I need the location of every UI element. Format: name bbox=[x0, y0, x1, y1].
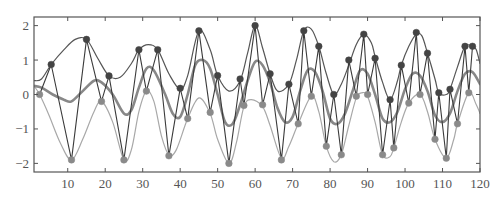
y-tick-label: 2 bbox=[23, 18, 30, 33]
data-point-marker bbox=[301, 28, 308, 35]
data-point-marker bbox=[469, 43, 476, 50]
sample-path bbox=[40, 26, 473, 164]
data-point-marker bbox=[424, 50, 431, 57]
data-point-marker bbox=[316, 43, 323, 50]
data-point-marker bbox=[83, 36, 90, 43]
data-point-marker bbox=[398, 62, 405, 69]
data-point-marker bbox=[417, 91, 424, 98]
data-point-marker bbox=[136, 46, 143, 53]
data-point-marker bbox=[323, 143, 330, 150]
data-point-marker bbox=[372, 55, 379, 62]
data-point-marker bbox=[278, 157, 285, 164]
x-tick-label: 60 bbox=[249, 176, 262, 191]
data-point-marker bbox=[121, 157, 128, 164]
data-point-marker bbox=[443, 155, 450, 162]
data-point-marker bbox=[252, 22, 259, 29]
data-point-marker bbox=[177, 85, 184, 92]
data-point-marker bbox=[436, 90, 443, 97]
mean-curve bbox=[34, 60, 480, 126]
data-point-marker bbox=[413, 29, 420, 36]
data-point-marker bbox=[166, 153, 173, 160]
x-tick-label: 90 bbox=[361, 176, 374, 191]
data-point-marker bbox=[48, 61, 55, 68]
y-tick-label: −1 bbox=[15, 121, 29, 136]
data-point-marker bbox=[353, 93, 360, 100]
data-point-marker bbox=[98, 98, 105, 105]
data-point-marker bbox=[184, 115, 191, 122]
data-point-marker bbox=[143, 88, 150, 95]
data-point-marker bbox=[338, 152, 345, 159]
data-point-marker bbox=[214, 72, 221, 79]
x-tick-label: 10 bbox=[61, 176, 74, 191]
y-tick-label: 0 bbox=[23, 87, 30, 102]
data-point-marker bbox=[331, 91, 338, 98]
y-tick-label: −2 bbox=[15, 156, 29, 171]
x-tick-label: 50 bbox=[211, 176, 224, 191]
data-point-marker bbox=[346, 57, 353, 64]
data-point-marker bbox=[432, 136, 439, 143]
plot-area bbox=[34, 22, 480, 166]
data-point-marker bbox=[308, 93, 315, 100]
data-point-marker bbox=[406, 100, 413, 107]
data-point-marker bbox=[295, 121, 302, 128]
data-point-marker bbox=[241, 102, 248, 109]
x-tick-label: 30 bbox=[136, 176, 149, 191]
data-point-marker bbox=[196, 28, 203, 35]
data-point-marker bbox=[106, 73, 113, 80]
x-tick-label: 80 bbox=[324, 176, 337, 191]
x-tick-label: 100 bbox=[395, 176, 415, 191]
data-point-marker bbox=[387, 96, 394, 103]
x-tick-label: 70 bbox=[286, 176, 299, 191]
data-point-marker bbox=[462, 43, 469, 50]
line-chart: 102030405060708090100110120 −2−1012 bbox=[0, 0, 503, 201]
data-point-marker bbox=[226, 160, 233, 167]
data-point-marker bbox=[447, 86, 454, 93]
x-tick-label: 110 bbox=[433, 176, 452, 191]
data-point-marker bbox=[267, 71, 274, 78]
data-point-marker bbox=[286, 81, 293, 88]
data-point-marker bbox=[154, 46, 161, 53]
data-point-marker bbox=[237, 76, 244, 83]
data-point-marker bbox=[259, 102, 266, 109]
data-point-marker bbox=[379, 152, 386, 159]
x-tick-label: 40 bbox=[174, 176, 187, 191]
data-point-marker bbox=[207, 109, 214, 116]
data-point-marker bbox=[466, 90, 473, 97]
x-tick-label: 120 bbox=[470, 176, 490, 191]
data-point-marker bbox=[364, 91, 371, 98]
data-point-marker bbox=[391, 145, 398, 152]
data-point-marker bbox=[361, 31, 368, 38]
y-tick-label: 1 bbox=[23, 53, 30, 68]
data-point-marker bbox=[454, 121, 461, 128]
data-point-marker bbox=[68, 157, 75, 164]
x-tick-label: 20 bbox=[99, 176, 112, 191]
